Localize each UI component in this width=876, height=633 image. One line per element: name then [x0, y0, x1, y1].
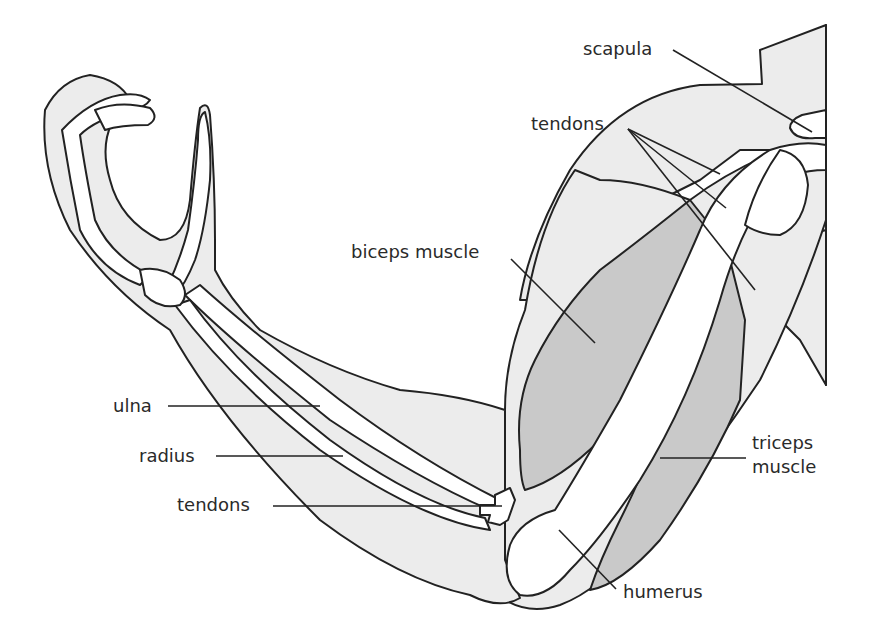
- label-biceps-muscle: biceps muscle: [351, 241, 479, 263]
- forearm-skin: [44, 75, 520, 603]
- label-tendons-bottom: tendons: [177, 494, 250, 516]
- finger-bones-2: [95, 104, 155, 130]
- diagram-artwork: [0, 0, 876, 633]
- label-triceps-line2: muscle: [752, 456, 816, 478]
- label-tendons-top: tendons: [531, 113, 604, 135]
- arm-anatomy-diagram: scapula tendons biceps muscle ulna radiu…: [0, 0, 876, 633]
- label-ulna: ulna: [113, 395, 152, 417]
- label-triceps-line1: triceps: [752, 432, 813, 454]
- label-humerus: humerus: [623, 581, 703, 603]
- label-scapula: scapula: [583, 38, 652, 60]
- label-radius: radius: [139, 445, 195, 467]
